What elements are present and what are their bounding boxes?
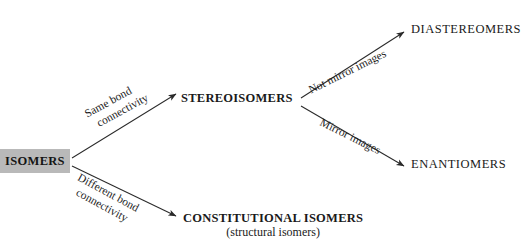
node-enantiomers-label: ENANTIOMERS [411,157,506,171]
node-enantiomers: ENANTIOMERS [411,157,506,171]
isomer-classification-diagram: ISOMERS STEREOISOMERS CONSTITUTIONAL ISO… [0,0,523,250]
node-constitutional-isomers: CONSTITUTIONAL ISOMERS (structural isome… [183,211,363,239]
node-stereoisomers: STEREOISOMERS [181,91,293,105]
node-constitutional-isomers-subtitle: (structural isomers) [183,226,363,239]
node-constitutional-isomers-label: CONSTITUTIONAL ISOMERS [183,211,363,225]
node-isomers: ISOMERS [0,149,70,173]
node-stereoisomers-label: STEREOISOMERS [181,91,293,105]
node-isomers-label: ISOMERS [5,154,65,168]
node-diastereomers: DIASTEREOMERS [411,22,521,36]
node-diastereomers-label: DIASTEREOMERS [411,22,521,36]
